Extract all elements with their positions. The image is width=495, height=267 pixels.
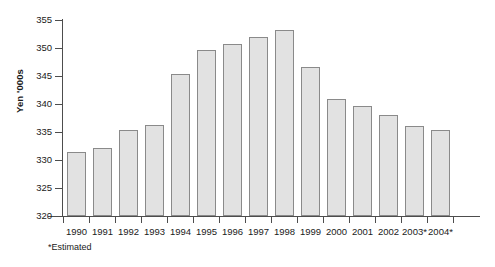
bar <box>145 125 164 216</box>
x-tick-mark <box>245 216 246 223</box>
x-tick-mark <box>63 216 64 223</box>
x-tick-mark <box>297 216 298 223</box>
y-tick-mark <box>55 160 63 161</box>
bar <box>119 130 138 216</box>
x-tick-mark <box>349 216 350 223</box>
bar <box>249 37 268 216</box>
y-tick-label: 350 <box>22 43 52 53</box>
footnote-estimated: *Estimated <box>48 243 92 252</box>
bar <box>327 99 346 216</box>
x-tick-label: 2004* <box>421 227 461 237</box>
y-tick-mark <box>55 132 63 133</box>
y-tick-label: 330 <box>22 155 52 165</box>
x-tick-mark <box>167 216 168 223</box>
bar <box>431 130 450 216</box>
y-axis-title: Yen '000s <box>11 51 29 131</box>
x-tick-mark <box>89 216 90 223</box>
y-tick-label: 345 <box>22 71 52 81</box>
bar <box>405 126 424 216</box>
y-tick-label: 325 <box>22 183 52 193</box>
x-tick-mark <box>427 216 428 223</box>
x-tick-mark <box>401 216 402 223</box>
y-tick-mark <box>55 76 63 77</box>
bar <box>379 115 398 216</box>
bar-chart-figure: Yen '000s 320325330335340345350355 19901… <box>0 0 495 267</box>
y-tick-mark <box>55 188 63 189</box>
y-tick-label: 320 <box>22 211 52 221</box>
x-tick-mark <box>219 216 220 223</box>
y-tick-label: 355 <box>22 15 52 25</box>
bar <box>301 67 320 216</box>
bar <box>197 50 216 216</box>
bar <box>171 74 190 216</box>
bar <box>275 30 294 216</box>
x-tick-mark <box>193 216 194 223</box>
x-tick-mark <box>453 216 454 223</box>
x-tick-mark <box>115 216 116 223</box>
x-tick-mark <box>271 216 272 223</box>
y-tick-label: 340 <box>22 99 52 109</box>
x-tick-mark <box>375 216 376 223</box>
bar <box>93 148 112 216</box>
y-tick-mark <box>55 216 63 217</box>
x-tick-mark <box>141 216 142 223</box>
bar <box>353 106 372 216</box>
y-tick-mark <box>55 104 63 105</box>
y-tick-mark <box>55 20 63 21</box>
bar <box>223 44 242 216</box>
y-tick-mark <box>55 48 63 49</box>
y-tick-label: 335 <box>22 127 52 137</box>
x-axis-line <box>48 216 480 217</box>
bar <box>67 152 86 216</box>
x-tick-mark <box>323 216 324 223</box>
